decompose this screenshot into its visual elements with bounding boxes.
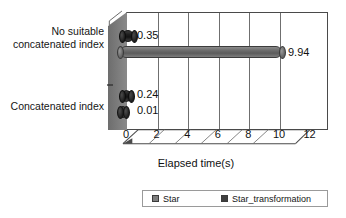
bar-star-no-suitable-concatenated-index[interactable]	[122, 30, 134, 42]
bar-cap-right	[128, 90, 135, 103]
bar-cap-left	[119, 90, 126, 103]
x-tick-12: 12	[303, 128, 315, 140]
category-label-concatenated-index: Concatenated index	[11, 100, 104, 113]
bar-cap-left	[119, 30, 126, 43]
legend-swatch-star-icon	[152, 195, 159, 202]
x-axis-title-wrap: Elapsed time(s)	[0, 157, 346, 169]
legend-label-star: Star	[163, 194, 180, 204]
bar-cap-right	[279, 46, 286, 59]
value-label-star-transformation-no-suitable: 9.94	[288, 46, 309, 58]
legend-item-star[interactable]: Star	[152, 194, 180, 204]
x-tick-8: 8	[245, 128, 251, 140]
value-label-star-concatenated: 0.24	[137, 88, 158, 100]
bar-star-transformation-no-suitable-concatenated-index[interactable]	[120, 46, 282, 58]
x-tick-0: 0	[123, 128, 129, 140]
bar-cap-left	[117, 46, 124, 59]
value-label-star-transformation-concatenated: 0.01	[137, 104, 158, 116]
chart-container: No suitable concatenated index Concatena…	[0, 0, 346, 218]
bar-series-group: 0.35 9.94 0.24 0.01	[108, 8, 332, 148]
x-tick-6: 6	[215, 128, 221, 140]
x-tick-2: 2	[154, 128, 160, 140]
legend-label-star-transformation: Star_transformation	[232, 194, 311, 204]
legend-item-star-transformation[interactable]: Star_transformation	[221, 194, 311, 204]
x-axis-title: Elapsed time(s)	[158, 157, 234, 169]
category-label-line: concatenated index	[13, 38, 104, 51]
bar-star-transformation-concatenated-index[interactable]	[120, 106, 126, 118]
x-tick-4: 4	[184, 128, 190, 140]
category-label-line: Concatenated index	[11, 100, 104, 113]
bar-star-concatenated-index[interactable]	[122, 90, 131, 102]
category-label-no-suitable-concatenated-index: No suitable concatenated index	[13, 25, 104, 50]
plot-area: 0.35 9.94 0.24 0.01	[108, 8, 332, 148]
category-axis-labels: No suitable concatenated index Concatena…	[0, 0, 108, 145]
x-tick-10: 10	[273, 128, 285, 140]
value-label-star-no-suitable: 0.35	[137, 29, 158, 41]
x-axis-tick-labels: 0 2 4 6 8 10 12	[108, 128, 338, 144]
bar-cap-right	[123, 106, 130, 119]
legend: Star Star_transformation	[142, 190, 328, 207]
bar-body	[120, 46, 282, 58]
legend-swatch-star-transformation-icon	[221, 195, 228, 202]
category-label-line: No suitable	[13, 25, 104, 38]
